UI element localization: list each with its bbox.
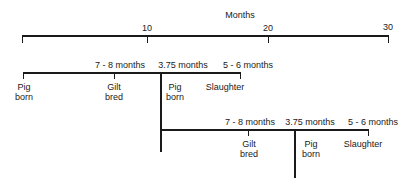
event-pig-born: Pig born xyxy=(15,82,33,102)
interval-label-fattening: 5 - 6 months xyxy=(223,60,273,70)
cycle-1-line xyxy=(23,72,240,74)
axis-tick-label-30: 30 xyxy=(383,22,393,32)
interval-label-gestation-2: 3.75 months xyxy=(285,117,335,127)
connector-to-cycle-3 xyxy=(294,129,296,178)
axis-tick-label-20: 20 xyxy=(263,23,273,33)
event-pig-born-3: Pig born xyxy=(302,139,320,159)
connector-to-cycle-2 xyxy=(160,72,162,152)
event-slaughter: Slaughter xyxy=(206,82,245,92)
event-gilt-bred-2: Gilt bred xyxy=(240,139,258,159)
interval-label-gestation: 3.75 months xyxy=(158,60,208,70)
tick-slaughter-2 xyxy=(368,129,369,136)
axis-tick-label-10: 10 xyxy=(142,23,152,33)
event-gilt-bred: Gilt bred xyxy=(105,82,123,102)
cycle-2-line xyxy=(160,129,368,131)
tick-gilt-bred-2 xyxy=(248,129,249,136)
interval-label-gestation-rearing: 7 - 8 months xyxy=(95,60,145,70)
axis-tick-0 xyxy=(22,35,23,43)
tick-slaughter xyxy=(240,72,241,79)
axis-tick-10 xyxy=(147,35,148,43)
interval-label-gestation-rearing-2: 7 - 8 months xyxy=(225,117,275,127)
axis-title: Months xyxy=(225,10,255,20)
axis-tick-20 xyxy=(268,35,269,43)
event-slaughter-2: Slaughter xyxy=(344,139,383,149)
tick-pig-born xyxy=(23,72,24,79)
event-pig-born-2: Pig born xyxy=(166,82,184,102)
tick-gilt-bred xyxy=(114,72,115,79)
interval-label-fattening-2: 5 - 6 months xyxy=(348,117,398,127)
axis-tick-30 xyxy=(388,35,389,43)
axis-line xyxy=(22,35,389,37)
